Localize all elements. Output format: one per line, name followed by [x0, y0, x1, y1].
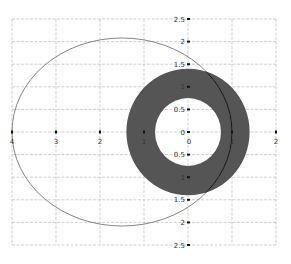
chart-plot: 43211202.521.510.500.511.522.5 [0, 0, 291, 264]
x-tick-label: 3 [54, 138, 58, 146]
y-tick-marker [187, 108, 190, 110]
x-tick-label: 4 [10, 138, 15, 146]
x-tick-marker [99, 131, 101, 134]
y-tick-marker [187, 176, 190, 178]
y-tick-marker [187, 244, 190, 246]
y-tick-marker [187, 199, 190, 201]
x-tick-marker [231, 131, 233, 134]
y-tick-label: 1 [181, 174, 185, 182]
x-tick-marker [275, 131, 277, 134]
x-tick-marker [55, 131, 57, 134]
x-tick-label: 2 [98, 138, 102, 146]
y-tick-label: 0.5 [174, 151, 185, 159]
y-tick-marker [187, 131, 190, 133]
y-tick-label: 2.5 [174, 16, 185, 24]
x-tick-label: 2 [274, 138, 278, 146]
y-tick-label: 2 [181, 38, 185, 46]
y-tick-label: 2 [181, 219, 185, 227]
x-tick-label: 0 [187, 138, 191, 146]
x-tick-label: 1 [142, 138, 146, 146]
y-tick-marker [187, 18, 190, 20]
y-tick-marker [187, 154, 190, 156]
y-tick-label: 0.5 [174, 106, 185, 114]
x-tick-label: 1 [230, 138, 234, 146]
x-tick-marker [11, 131, 13, 134]
y-tick-label: 1.5 [174, 196, 185, 204]
y-tick-label: 0 [181, 129, 185, 137]
y-tick-marker [187, 63, 190, 65]
y-tick-label: 2.5 [174, 242, 185, 250]
chart-shapes [12, 38, 250, 226]
y-tick-marker [187, 221, 190, 223]
y-tick-label: 1.5 [174, 61, 185, 69]
y-tick-marker [187, 41, 190, 43]
x-tick-marker [143, 131, 145, 134]
y-tick-label: 1 [181, 83, 185, 91]
y-tick-marker [187, 86, 190, 88]
